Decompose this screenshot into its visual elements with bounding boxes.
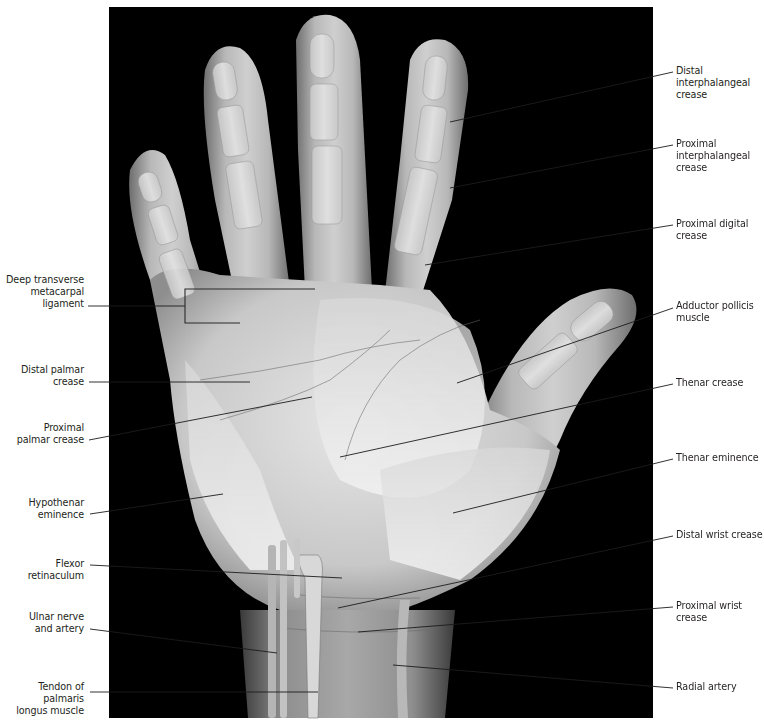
hand-xray-illustration — [0, 0, 764, 724]
label-adductor-pollicis-muscle: Adductor pollicis muscle — [676, 300, 754, 324]
label-distal-wrist-crease: Distal wrist crease — [676, 529, 762, 541]
label-hypothenar-eminence: Hypothenar eminence — [0, 497, 84, 521]
label-distal-palmar-crease: Distal palmar crease — [0, 364, 84, 388]
label-radial-artery: Radial artery — [676, 681, 737, 693]
label-proximal-interphalangeal-crease: Proximal interphalangeal crease — [676, 138, 750, 174]
label-thenar-eminence: Thenar eminence — [676, 452, 758, 464]
label-tendon-of-palmaris-longus: Tendon of palmaris longus muscle — [0, 681, 84, 717]
label-proximal-digital-crease: Proximal digital crease — [676, 218, 748, 242]
label-thenar-crease: Thenar crease — [676, 377, 743, 389]
label-deep-transverse-metacarpal-ligament: Deep transverse metacarpal ligament — [0, 274, 84, 310]
label-flexor-retinaculum: Flexor retinaculum — [0, 558, 84, 582]
label-proximal-wrist-crease: Proximal wrist crease — [676, 600, 742, 624]
label-ulnar-nerve-and-artery: Ulnar nerve and artery — [0, 611, 84, 635]
label-proximal-palmar-crease: Proximal palmar crease — [0, 422, 84, 446]
label-distal-interphalangeal-crease: Distal interphalangeal crease — [676, 65, 750, 101]
